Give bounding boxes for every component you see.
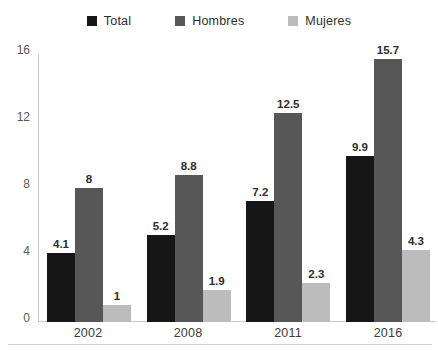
bar-value-label: 1.9 bbox=[209, 275, 225, 287]
y-axis-tick: 8 bbox=[23, 177, 30, 191]
bar-column[interactable]: 8 bbox=[75, 54, 103, 322]
bar-column[interactable]: 5.2 bbox=[147, 54, 175, 322]
bar-column[interactable]: 1.9 bbox=[203, 54, 231, 322]
bar-value-label: 7.2 bbox=[252, 186, 268, 198]
bar[interactable] bbox=[374, 59, 402, 322]
legend-item-mujeres: Mujeres bbox=[288, 14, 351, 28]
bar-column[interactable]: 1 bbox=[103, 54, 131, 322]
bar-column[interactable]: 2.3 bbox=[302, 54, 330, 322]
plot-area: 0481216 4.1815.28.81.97.212.52.39.915.74… bbox=[38, 48, 436, 324]
x-axis-label: 2016 bbox=[346, 326, 430, 344]
x-axis-labels: 2002200820112016 bbox=[38, 326, 436, 344]
bar-column[interactable]: 8.8 bbox=[175, 54, 203, 322]
bar-value-label: 1 bbox=[114, 290, 120, 302]
bar-group: 5.28.81.9 bbox=[147, 54, 231, 322]
x-axis-label: 2011 bbox=[246, 326, 330, 344]
bar-value-label: 4.1 bbox=[53, 238, 69, 250]
bar[interactable] bbox=[75, 188, 103, 322]
bar-group: 7.212.52.3 bbox=[246, 54, 330, 322]
legend-square-icon bbox=[175, 16, 185, 26]
legend-item-hombres: Hombres bbox=[175, 14, 244, 28]
y-axis-tick: 12 bbox=[17, 110, 30, 124]
bar-value-label: 5.2 bbox=[153, 220, 169, 232]
chart-legend: Total Hombres Mujeres bbox=[0, 8, 438, 34]
bar[interactable] bbox=[147, 235, 175, 322]
bar-column[interactable]: 15.7 bbox=[374, 54, 402, 322]
y-axis-tick: 16 bbox=[17, 43, 30, 57]
bar-value-label: 15.7 bbox=[377, 44, 399, 56]
footer-divider bbox=[8, 344, 432, 345]
bar[interactable] bbox=[274, 113, 302, 322]
x-axis-label: 2002 bbox=[46, 326, 130, 344]
bar[interactable] bbox=[47, 253, 75, 322]
bar-column[interactable]: 4.3 bbox=[402, 54, 430, 322]
bar-group: 4.181 bbox=[47, 54, 131, 322]
bar-chart: Total Hombres Mujeres 0481216 4.1815.28.… bbox=[0, 0, 438, 353]
bar[interactable] bbox=[402, 250, 430, 322]
bar[interactable] bbox=[203, 290, 231, 322]
bar[interactable] bbox=[302, 283, 330, 322]
x-axis-label: 2008 bbox=[146, 326, 230, 344]
bar[interactable] bbox=[103, 305, 131, 322]
bar[interactable] bbox=[175, 175, 203, 322]
bar-value-label: 9.9 bbox=[352, 141, 368, 153]
legend-square-icon bbox=[288, 16, 298, 26]
bar-value-label: 8 bbox=[86, 173, 92, 185]
bar-column[interactable]: 12.5 bbox=[274, 54, 302, 322]
bar-column[interactable]: 4.1 bbox=[47, 54, 75, 322]
y-axis-tick: 0 bbox=[23, 311, 30, 325]
legend-item-total: Total bbox=[87, 14, 131, 28]
legend-label-mujeres: Mujeres bbox=[305, 14, 351, 28]
bar-column[interactable]: 9.9 bbox=[346, 54, 374, 322]
bar-value-label: 4.3 bbox=[408, 235, 424, 247]
legend-square-icon bbox=[87, 16, 97, 26]
legend-label-total: Total bbox=[104, 14, 131, 28]
bar-group: 9.915.74.3 bbox=[346, 54, 430, 322]
bar-value-label: 8.8 bbox=[181, 160, 197, 172]
y-axis-tick: 4 bbox=[23, 244, 30, 258]
bar-column[interactable]: 7.2 bbox=[246, 54, 274, 322]
legend-label-hombres: Hombres bbox=[192, 14, 244, 28]
bar-value-label: 2.3 bbox=[308, 268, 324, 280]
bar[interactable] bbox=[346, 156, 374, 322]
bar-groups: 4.1815.28.81.97.212.52.39.915.74.3 bbox=[39, 54, 436, 322]
bar-value-label: 12.5 bbox=[277, 98, 299, 110]
bar[interactable] bbox=[246, 201, 274, 322]
